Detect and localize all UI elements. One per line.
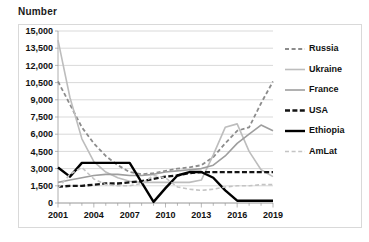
y-tick-label: 9,000 [30,95,53,105]
chart-axis-title: Number [18,6,57,17]
y-tick-label: 12,000 [25,61,53,71]
chart-plot-frame: 01,5003,0004,5006,0007,5009,00010,50012,… [18,24,362,228]
x-tick-label: 2013 [191,210,211,220]
legend-label-usa: USA [309,105,329,115]
line-chart-svg: 01,5003,0004,5006,0007,5009,00010,50012,… [19,25,363,229]
y-tick-label: 13,500 [25,43,53,53]
series-line-ukraine [58,40,273,182]
legend-label-amlat: AmLat [309,146,337,156]
y-tick-label: 1,500 [30,181,53,191]
legend-label-france: France [309,84,339,94]
x-tick-label: 2007 [120,210,140,220]
legend-label-ethiopia: Ethiopia [309,125,345,135]
x-tick-label: 2001 [48,210,68,220]
y-tick-label: 15,000 [25,26,53,36]
y-tick-label: 7,500 [30,112,53,122]
y-tick-label: 3,000 [30,164,53,174]
x-tick-label: 2016 [227,210,247,220]
x-tick-label: 2010 [155,210,175,220]
x-tick-label: 2004 [84,210,104,220]
y-tick-label: 0 [48,198,53,208]
series-line-russia [58,81,273,174]
y-tick-label: 10,500 [25,78,53,88]
series-line-usa [58,172,273,187]
legend-label-ukraine: Ukraine [309,64,342,74]
chart-root: Number 01,5003,0004,5006,0007,5009,00010… [0,0,369,242]
legend-label-russia: Russia [309,43,340,53]
y-tick-label: 6,000 [30,129,53,139]
x-tick-label: 2019 [263,210,283,220]
y-tick-label: 4,500 [30,147,53,157]
